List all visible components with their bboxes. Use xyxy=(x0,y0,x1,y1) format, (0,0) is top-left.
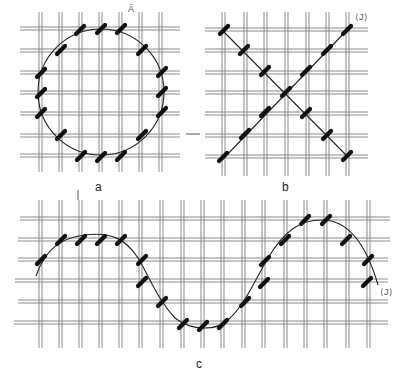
panel-a-label: a xyxy=(95,180,102,194)
panel-b-marker: ⟨J⟩ xyxy=(355,12,368,22)
panel-b-label: b xyxy=(282,180,289,194)
panel-c-label: c xyxy=(196,357,202,371)
panel-a-marker: Ä xyxy=(128,4,134,14)
panel-c-marker: ⟨J⟩ xyxy=(380,287,393,297)
embroidery-diagram xyxy=(0,0,408,379)
